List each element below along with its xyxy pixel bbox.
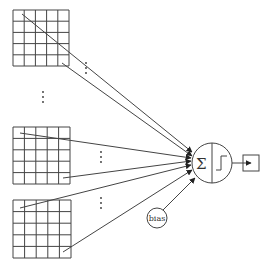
bias-label: bias (149, 214, 166, 223)
ellipsis-dots (42, 62, 102, 209)
weight-connection (63, 170, 192, 252)
perceptron-diagram: Σ bias (0, 0, 267, 265)
input-grid (13, 10, 69, 66)
neuron: Σ (192, 143, 232, 183)
bias-arrow (163, 178, 195, 210)
input-grid (13, 200, 71, 258)
sum-symbol: Σ (196, 155, 207, 173)
bias-node: bias (147, 178, 195, 228)
input-grid (13, 127, 70, 184)
